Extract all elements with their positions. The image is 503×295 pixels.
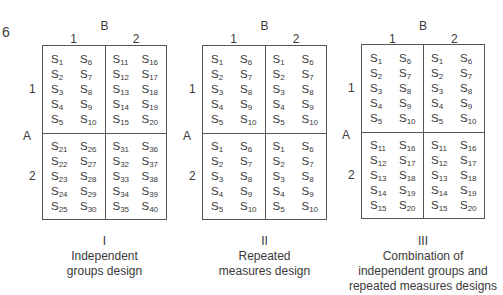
subject-label: S10 (80, 112, 97, 127)
subject-label: S17 (142, 67, 159, 82)
subject-column: S6S7S8S9S10 (240, 139, 257, 214)
factor-a-label: A (23, 129, 31, 143)
subject-label: S29 (80, 184, 97, 199)
subject-label: S1 (51, 52, 63, 67)
subject-label: S8 (302, 82, 319, 97)
subject-column: S6S7S8S9S10 (240, 52, 257, 127)
caption-line: measures design (205, 264, 325, 279)
subject-label: S5 (273, 112, 285, 127)
cell-a2b2: S1S2S3S4S5S6S7S8S9S10 (265, 133, 327, 220)
subject-column: S36S37S38S39S40 (142, 139, 159, 214)
subject-label: S11 (370, 138, 387, 153)
caption-line: independent groups and (343, 264, 503, 279)
subject-label: S16 (460, 138, 477, 153)
subject-label: S12 (113, 67, 130, 82)
subject-label: S3 (51, 82, 63, 97)
subject-label: S1 (370, 51, 382, 66)
subject-label: S10 (302, 199, 319, 214)
subject-label: S7 (460, 66, 477, 81)
subject-column: S31S32S33S34S35 (113, 139, 130, 214)
subject-label: S23 (51, 169, 68, 184)
subject-label: S39 (142, 184, 159, 199)
subject-label: S4 (370, 96, 382, 111)
caption-line: Combination of (343, 249, 503, 264)
subject-label: S3 (273, 82, 285, 97)
subject-label: S38 (142, 169, 159, 184)
subject-label: S3 (273, 169, 285, 184)
subject-label: S8 (302, 169, 319, 184)
subject-label: S17 (399, 153, 416, 168)
subject-label: S1 (211, 52, 223, 67)
subject-label: S18 (460, 168, 477, 183)
subject-label: S30 (80, 199, 97, 214)
subject-label: S28 (80, 169, 97, 184)
subject-label: S7 (80, 67, 97, 82)
subject-label: S16 (142, 52, 159, 67)
subject-label: S18 (142, 82, 159, 97)
subject-column: S16S17S18S19S20 (399, 138, 416, 213)
subject-label: S5 (273, 199, 285, 214)
subject-label: S1 (431, 51, 443, 66)
subject-label: S6 (399, 51, 416, 66)
subject-label: S1 (211, 139, 223, 154)
subject-label: S11 (113, 52, 130, 67)
subject-label: S6 (240, 52, 257, 67)
subject-label: S2 (431, 66, 443, 81)
subject-label: S15 (431, 198, 448, 213)
subject-label: S24 (51, 184, 68, 199)
factor-b-label: B (261, 19, 269, 33)
subject-label: S18 (399, 168, 416, 183)
subject-label: S19 (142, 97, 159, 112)
figure-number: 6 (2, 24, 10, 40)
subject-label: S20 (142, 112, 159, 127)
subject-column: S11S12S13S14S15 (370, 138, 387, 213)
subject-label: S2 (273, 154, 285, 169)
subject-label: S31 (113, 139, 130, 154)
cell-a1b2: S1S2S3S4S5S6S7S8S9S10 (265, 46, 327, 133)
subject-label: S3 (211, 82, 223, 97)
subject-label: S25 (51, 199, 68, 214)
subject-label: S34 (113, 184, 130, 199)
subject-label: S3 (370, 81, 382, 96)
subject-label: S36 (142, 139, 159, 154)
subject-label: S2 (211, 67, 223, 82)
subject-label: S2 (370, 66, 382, 81)
cell-a1b1: S1S2S3S4S5S6S7S8S9S10 (203, 46, 265, 133)
subject-label: S1 (273, 52, 285, 67)
subject-label: S32 (113, 154, 130, 169)
subject-label: S33 (113, 169, 130, 184)
cell-a2b2: S11S12S13S14S15S16S17S18S19S20 (423, 132, 484, 219)
factor-a-label: A (342, 128, 350, 142)
cell-a2b2: S31S32S33S34S35S36S37S38S39S40 (105, 133, 167, 220)
subject-label: S19 (399, 183, 416, 198)
subject-label: S20 (460, 198, 477, 213)
subject-label: S5 (370, 111, 382, 126)
a-level-label: 1 (348, 81, 355, 95)
subject-label: S12 (431, 153, 448, 168)
design-numeral: II (205, 234, 325, 249)
subject-label: S35 (113, 199, 130, 214)
design-caption: IIndependentgroups design (45, 234, 165, 279)
subject-label: S1 (273, 139, 285, 154)
subject-label: S4 (211, 184, 223, 199)
subject-label: S10 (240, 199, 257, 214)
subject-label: S13 (113, 82, 130, 97)
subject-label: S4 (273, 97, 285, 112)
factor-a-label: A (183, 129, 191, 143)
subject-column: S1S2S3S4S5 (211, 52, 223, 127)
subject-label: S4 (211, 97, 223, 112)
design-grid: S1S2S3S4S5S6S7S8S9S10S1S2S3S4S5S6S7S8S9S… (361, 44, 485, 219)
cell-a1b2: S1S2S3S4S5S6S7S8S9S10 (423, 45, 484, 132)
subject-label: S6 (240, 139, 257, 154)
a-level-label: 2 (29, 169, 36, 183)
cell-a1b1: S1S2S3S4S5S6S7S8S9S10 (43, 46, 105, 133)
subject-label: S7 (399, 66, 416, 81)
subject-label: S10 (460, 111, 477, 126)
a-level-label: 1 (29, 82, 36, 96)
subject-label: S7 (240, 67, 257, 82)
subject-label: S4 (51, 97, 63, 112)
subject-label: S7 (240, 154, 257, 169)
subject-column: S6S7S8S9S10 (80, 52, 97, 127)
subject-label: S26 (80, 139, 97, 154)
subject-column: S1S2S3S4S5 (51, 52, 63, 127)
